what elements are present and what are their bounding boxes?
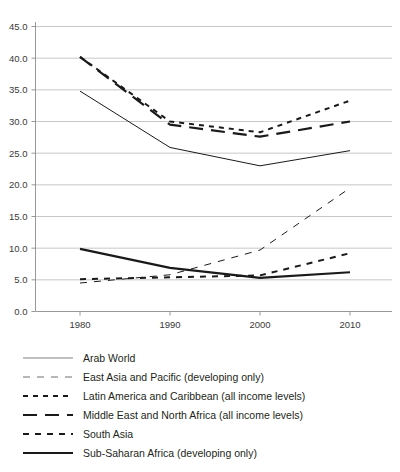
legend-item-arab-world: Arab World [22, 348, 392, 367]
legend-item-middle-east-and-north-africa: Middle East and North Africa (all income… [22, 405, 392, 424]
legend-item-east-asia-and-pacific: East Asia and Pacific (developing only) [22, 367, 392, 386]
line-solid-thin-icon [22, 352, 74, 364]
x-axis-tick-label: 2000 [249, 319, 270, 330]
x-axis-tick-label: 1980 [69, 319, 90, 330]
series-line [80, 188, 350, 283]
y-axis-tick-label: 0.0 [14, 306, 27, 317]
line-chart-figure: 0.05.010.015.020.025.030.035.040.045.0 1… [0, 0, 400, 472]
x-axis-ticks-group: 1980199020002010 [69, 312, 360, 330]
chart-legend: Arab World East Asia and Pacific (develo… [22, 348, 392, 462]
x-axis-tick-label: 1990 [159, 319, 180, 330]
plot-area: 0.05.010.015.020.025.030.035.040.045.0 1… [0, 0, 400, 345]
y-axis-tick-label: 45.0 [9, 21, 28, 32]
y-axis-tick-label: 5.0 [14, 274, 27, 285]
line-short-dash-bold-icon [22, 390, 74, 402]
line-long-dash-thin-icon [22, 371, 74, 383]
y-axis-tick-label: 15.0 [9, 211, 28, 222]
y-axis-tick-label: 10.0 [9, 243, 28, 254]
legend-label: Middle East and North Africa (all income… [83, 409, 303, 421]
y-axis-tick-label: 40.0 [9, 53, 28, 64]
legend-label: Arab World [83, 352, 135, 364]
y-axis-tick-label: 35.0 [9, 84, 28, 95]
legend-label: South Asia [83, 428, 133, 440]
y-axis-tick-label: 20.0 [9, 179, 28, 190]
y-axis-ticks-group: 0.05.010.015.020.025.030.035.040.045.0 [9, 21, 36, 317]
y-axis-tick-label: 30.0 [9, 116, 28, 127]
line-solid-bold-icon [22, 447, 74, 459]
legend-label: Sub-Saharan Africa (developing only) [83, 447, 257, 459]
series-line [80, 57, 350, 132]
y-axis-tick-label: 25.0 [9, 148, 28, 159]
line-long-dash-bold-icon [22, 409, 74, 421]
legend-label: East Asia and Pacific (developing only) [83, 371, 264, 383]
series-line [80, 57, 350, 137]
legend-label: Latin America and Caribbean (all income … [83, 390, 305, 402]
legend-item-south-asia: South Asia [22, 424, 392, 443]
legend-item-sub-saharan-africa: Sub-Saharan Africa (developing only) [22, 443, 392, 462]
line-medium-dash-bold-icon [22, 428, 74, 440]
x-axis-tick-label: 2010 [339, 319, 360, 330]
series-group [80, 57, 350, 283]
legend-item-latin-america-and-caribbean: Latin America and Caribbean (all income … [22, 386, 392, 405]
